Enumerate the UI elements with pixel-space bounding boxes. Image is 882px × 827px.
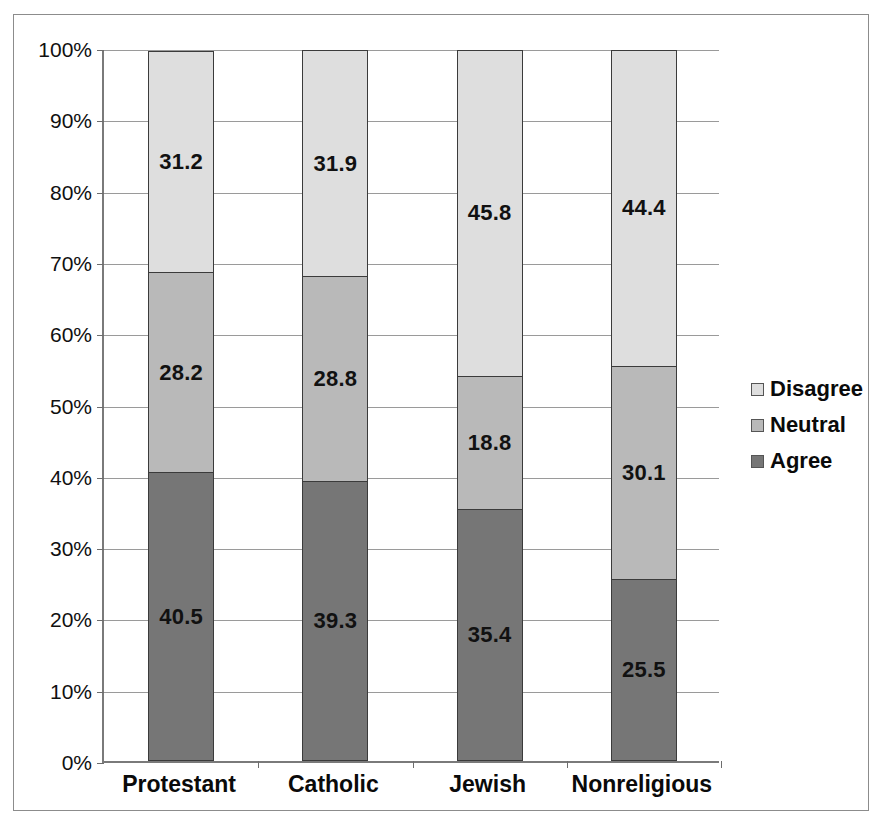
bar-segment-neutral[interactable]: 28.2 [148, 272, 214, 473]
bar-value-label: 40.5 [159, 606, 203, 628]
x-axis-tick [258, 761, 259, 768]
legend-item-disagree[interactable]: Disagree [751, 371, 869, 407]
bar-value-label: 30.1 [622, 462, 666, 484]
y-axis-tick [97, 50, 104, 51]
legend-item-neutral[interactable]: Neutral [751, 407, 869, 443]
bar-value-label: 28.2 [159, 362, 203, 384]
y-axis-labels: 100%90%80%70%60%50%40%30%20%10%0% [14, 50, 92, 763]
y-axis-tick [97, 549, 104, 550]
x-axis-category-label: Protestant [122, 771, 236, 798]
bar-segment-agree[interactable]: 25.5 [611, 579, 677, 761]
bar-segment-disagree[interactable]: 45.8 [457, 50, 523, 377]
bar-value-label: 31.9 [314, 153, 358, 175]
bar-value-label: 31.2 [159, 151, 203, 173]
y-axis-tick-label: 10% [12, 680, 92, 704]
legend-item-label: Neutral [770, 412, 846, 438]
x-axis-tick [721, 761, 722, 768]
legend-swatch-icon [751, 419, 764, 432]
bar-value-label: 45.8 [468, 202, 512, 224]
y-axis-tick-label: 60% [12, 323, 92, 347]
chart-legend: DisagreeNeutralAgree [751, 371, 869, 479]
x-axis-category-label: Nonreligious [572, 771, 713, 798]
y-axis-tick-label: 20% [12, 608, 92, 632]
y-axis-tick-label: 0% [12, 751, 92, 775]
bar-stack-jewish[interactable]: 45.818.835.4 [457, 51, 523, 761]
legend-item-agree[interactable]: Agree [751, 443, 869, 479]
x-axis-labels: ProtestantCatholicJewishNonreligious [102, 771, 719, 811]
legend-item-label: Agree [770, 448, 832, 474]
x-axis-category-label: Catholic [288, 771, 379, 798]
bar-value-label: 35.4 [468, 624, 512, 646]
legend-swatch-icon [751, 455, 764, 468]
bar-value-label: 25.5 [622, 659, 666, 681]
bar-segment-disagree[interactable]: 31.2 [148, 51, 214, 273]
y-axis-tick [97, 620, 104, 621]
bar-value-label: 28.8 [314, 368, 358, 390]
y-axis-tick-label: 80% [12, 181, 92, 205]
bar-segment-disagree[interactable]: 44.4 [611, 50, 677, 367]
bar-value-label: 44.4 [622, 197, 666, 219]
bar-segment-neutral[interactable]: 18.8 [457, 376, 523, 510]
y-axis-tick [97, 264, 104, 265]
y-axis-tick-label: 70% [12, 252, 92, 276]
y-axis-tick [97, 478, 104, 479]
chart-frame: 100%90%80%70%60%50%40%30%20%10%0% 31.228… [13, 14, 869, 811]
y-axis-tick-label: 40% [12, 466, 92, 490]
bar-segment-neutral[interactable]: 30.1 [611, 366, 677, 581]
y-axis-tick-label: 90% [12, 109, 92, 133]
y-axis-tick [97, 121, 104, 122]
x-axis-category-label: Jewish [449, 771, 526, 798]
bar-segment-agree[interactable]: 40.5 [148, 472, 214, 761]
plot-area: 31.228.240.531.928.839.345.818.835.444.4… [102, 50, 719, 763]
bar-segment-agree[interactable]: 39.3 [302, 481, 368, 761]
bar-stack-nonreligious[interactable]: 44.430.125.5 [611, 51, 677, 761]
bar-segment-disagree[interactable]: 31.9 [302, 50, 368, 277]
y-axis-tick [97, 407, 104, 408]
bar-value-label: 18.8 [468, 432, 512, 454]
legend-item-label: Disagree [770, 376, 863, 402]
y-axis-tick [97, 193, 104, 194]
bar-segment-neutral[interactable]: 28.8 [302, 276, 368, 481]
x-axis-tick [567, 761, 568, 768]
legend-swatch-icon [751, 383, 764, 396]
bar-segment-agree[interactable]: 35.4 [457, 509, 523, 761]
bar-value-label: 39.3 [314, 610, 358, 632]
y-axis-tick [97, 692, 104, 693]
y-axis-tick-label: 30% [12, 537, 92, 561]
bar-stack-catholic[interactable]: 31.928.839.3 [302, 51, 368, 761]
y-axis-tick [97, 335, 104, 336]
y-axis-tick [97, 763, 104, 764]
x-axis-tick [413, 761, 414, 768]
y-axis-tick-label: 100% [12, 38, 92, 62]
bar-stack-protestant[interactable]: 31.228.240.5 [148, 52, 214, 761]
y-axis-tick-label: 50% [12, 395, 92, 419]
